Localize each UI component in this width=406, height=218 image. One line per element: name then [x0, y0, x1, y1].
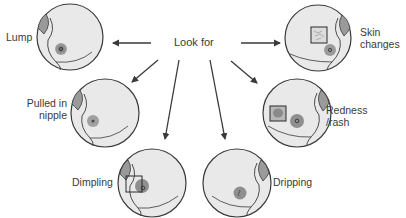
skin-changes-illustration — [285, 5, 351, 71]
arrow-to-dripping — [210, 60, 225, 139]
label-pulled-in-nipple: Pulled in nipple — [27, 97, 67, 121]
label-dimpling: Dimpling — [72, 176, 113, 188]
label-dripping: Dripping — [273, 176, 312, 188]
label-skin-changes: Skin changes — [360, 26, 400, 50]
label-redness-rash-line1: Redness — [326, 104, 367, 116]
label-pulled-in-nipple-line2: nipple — [27, 109, 67, 121]
arrows — [113, 43, 280, 139]
breast-check-diagram: Look for Lump Skin changes Pulled in nip… — [0, 0, 406, 218]
arrow-to-pulled-in-nipple — [132, 60, 158, 82]
label-pulled-in-nipple-line1: Pulled in — [27, 97, 67, 109]
redness-rash-illustration — [263, 79, 331, 147]
arrow-to-dimpling — [165, 60, 179, 139]
label-skin-changes-line2: changes — [360, 38, 400, 50]
label-lump: Lump — [6, 31, 32, 43]
arrow-to-redness — [231, 61, 257, 83]
label-skin-changes-line1: Skin — [360, 26, 400, 38]
dripping-illustration — [203, 149, 271, 217]
pulled-in-nipple-illustration — [71, 79, 139, 147]
lump-illustration — [37, 4, 103, 70]
look-for-label: Look for — [174, 36, 214, 48]
label-redness-rash: Redness /rash — [326, 104, 367, 128]
dimpling-illustration — [118, 149, 186, 217]
label-redness-rash-line2: /rash — [326, 116, 367, 128]
